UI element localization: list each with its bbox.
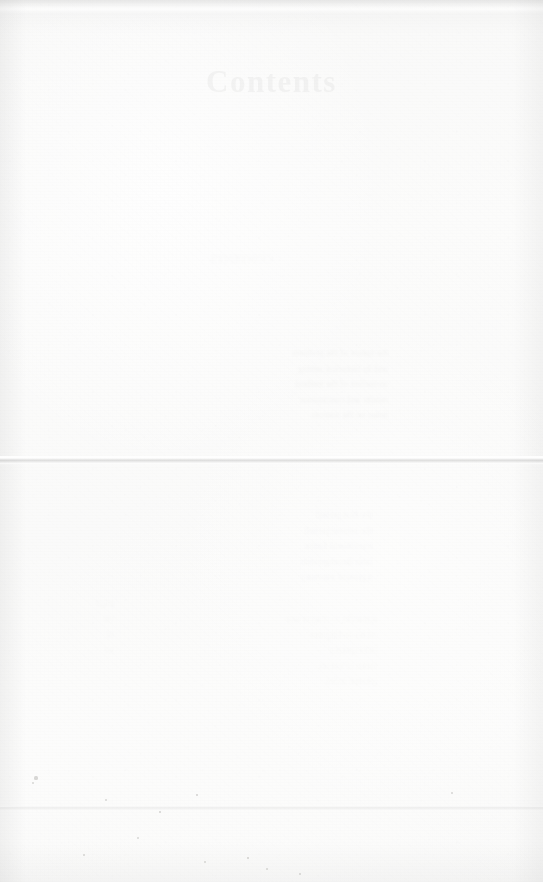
dust-speck — [247, 857, 249, 859]
page-edge-shadow-left — [0, 0, 26, 882]
dust-speck — [34, 776, 37, 779]
dust-speck — [451, 792, 453, 794]
dust-speck — [196, 794, 198, 796]
page-edge-shadow-bottom — [0, 842, 543, 882]
dust-speck — [266, 868, 268, 870]
paper-fiber-texture — [0, 0, 543, 882]
scanned-page: CONTENTS the nature of the problem and i… — [0, 0, 543, 882]
dust-speck — [299, 873, 301, 875]
page-title: Contents — [0, 64, 543, 100]
dust-speck — [105, 799, 107, 801]
dust-speck — [83, 854, 85, 856]
page-edge-shadow-top — [0, 0, 543, 34]
fold-crease-main — [0, 456, 543, 465]
page-edge-shadow-right — [513, 0, 543, 882]
fold-crease-lower — [0, 806, 543, 810]
dust-speck — [159, 811, 161, 813]
